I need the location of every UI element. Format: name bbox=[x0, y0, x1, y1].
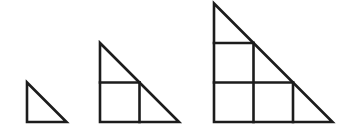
triangle-figure-stage-2 bbox=[100, 43, 179, 122]
outer-triangle bbox=[214, 4, 333, 123]
diagram-canvas bbox=[0, 0, 343, 140]
outer-triangle bbox=[27, 83, 67, 123]
triangle-figure-stage-1 bbox=[27, 83, 67, 123]
triangle-figure-stage-3 bbox=[214, 4, 333, 123]
